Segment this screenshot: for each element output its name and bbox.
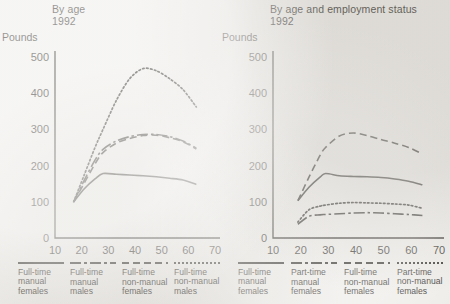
y-axis-tick-label: 0 bbox=[225, 232, 267, 244]
legend-label-line: females bbox=[122, 287, 168, 296]
x-axis-tick-label: 60 bbox=[405, 244, 417, 256]
series-line-solid bbox=[298, 174, 423, 201]
legend-line-sample-solid bbox=[18, 262, 64, 264]
plot-area-right: 010020030040050010203040506070 bbox=[222, 0, 450, 250]
chart-panel-by-age-and-employment-status: By age and employment status 1992 Pounds… bbox=[222, 0, 450, 304]
series-line-solid bbox=[74, 173, 197, 201]
legend-label-line: females bbox=[344, 287, 390, 296]
y-axis-tick-label: 500 bbox=[225, 51, 267, 63]
series-line-dashed bbox=[74, 135, 197, 202]
x-axis-tick-label: 40 bbox=[350, 244, 362, 256]
legend-item: Full-timemanualmales bbox=[70, 262, 116, 296]
y-axis-tick-label: 300 bbox=[225, 123, 267, 135]
x-axis-tick-label: 30 bbox=[102, 244, 114, 256]
x-axis-tick-label: 10 bbox=[49, 244, 61, 256]
legend-line-sample-dotted bbox=[397, 262, 443, 264]
x-axis-tick-label: 30 bbox=[322, 244, 334, 256]
legend-line-sample-dashed bbox=[122, 262, 168, 264]
y-axis-tick-label: 100 bbox=[7, 196, 49, 208]
x-axis-tick-label: 20 bbox=[76, 244, 88, 256]
series-line-dash-dot bbox=[298, 213, 423, 225]
plot-area-left: 010020030040050010203040506070 bbox=[0, 0, 228, 250]
x-axis-tick-label: 40 bbox=[129, 244, 141, 256]
legend-item: Full-timemanualfemales bbox=[238, 262, 284, 296]
legend-line-sample-dash-dot bbox=[70, 262, 116, 264]
axis-lines bbox=[55, 51, 220, 238]
legend-line-sample-dashed bbox=[344, 262, 390, 264]
legend-item: Full-timenon-manualfemales bbox=[344, 262, 390, 296]
legend-label-line: females bbox=[238, 287, 284, 296]
legend-left: Full-timemanualfemalesFull-timemanualmal… bbox=[18, 262, 226, 302]
y-axis-tick-label: 300 bbox=[7, 123, 49, 135]
y-axis-tick-label: 100 bbox=[225, 196, 267, 208]
legend-label-line: females bbox=[18, 287, 64, 296]
y-axis-tick-label: 500 bbox=[7, 51, 49, 63]
legend-item: Full-timenon-manualmales bbox=[174, 262, 220, 296]
x-axis-tick-label: 50 bbox=[156, 244, 168, 256]
legend-line-sample-dotted bbox=[174, 262, 220, 264]
y-axis-tick-label: 200 bbox=[7, 160, 49, 172]
y-axis-tick-label: 200 bbox=[225, 160, 267, 172]
y-axis-tick-label: 0 bbox=[7, 232, 49, 244]
legend-item: Full-timemanualfemales bbox=[18, 262, 64, 296]
legend-line-sample-solid bbox=[238, 262, 284, 264]
legend-item: Full-timenon-manualfemales bbox=[122, 262, 168, 296]
chart-panel-by-age: By age 1992 Pounds 010020030040050010203… bbox=[0, 0, 228, 304]
y-axis-tick-label: 400 bbox=[225, 87, 267, 99]
legend-line-sample-dash-dot bbox=[291, 262, 337, 264]
legend-label-line: males bbox=[174, 287, 220, 296]
x-axis-tick-label: 60 bbox=[182, 244, 194, 256]
y-axis-tick-label: 400 bbox=[7, 87, 49, 99]
x-axis-tick-label: 70 bbox=[433, 244, 445, 256]
legend-label-line: females bbox=[291, 287, 337, 296]
legend-item: Part-timenon-manualfemales bbox=[397, 262, 443, 296]
legend-label-line: males bbox=[70, 287, 116, 296]
legend-right: Full-timemanualfemalesPart-timemanualfem… bbox=[238, 262, 450, 302]
x-axis-tick-label: 70 bbox=[209, 244, 221, 256]
legend-item: Part-timemanualfemales bbox=[291, 262, 337, 296]
x-axis-tick-label: 10 bbox=[267, 244, 279, 256]
axis-lines bbox=[273, 51, 444, 238]
x-axis-tick-label: 50 bbox=[378, 244, 390, 256]
series-line-dashed bbox=[298, 133, 423, 201]
figure-page: By age 1992 Pounds 010020030040050010203… bbox=[0, 0, 450, 304]
x-axis-tick-label: 20 bbox=[295, 244, 307, 256]
legend-label-line: females bbox=[397, 287, 443, 296]
